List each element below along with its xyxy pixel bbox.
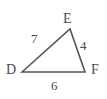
vertex-label-d: D xyxy=(6,63,16,77)
side-length-de: 7 xyxy=(31,32,38,45)
side-length-df: 6 xyxy=(51,79,58,92)
vertex-label-e: E xyxy=(63,12,72,26)
side-length-ef: 4 xyxy=(80,39,87,52)
triangle-figure: D E F 7 4 6 xyxy=(0,0,107,99)
vertex-label-f: F xyxy=(91,63,99,77)
